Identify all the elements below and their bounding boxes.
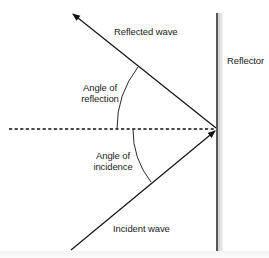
angle-of-reflection-line1: Angle of [80, 82, 120, 93]
angle-of-reflection-label: Angle of reflection [80, 82, 120, 104]
angle-of-incidence-label: Angle of incidence [93, 150, 133, 172]
bottom-edge [0, 251, 269, 258]
angle-of-incidence-line1: Angle of [93, 150, 133, 161]
angle-of-incidence-arc [133, 129, 151, 182]
angle-of-reflection-line2: reflection [80, 93, 120, 104]
reflected-wave-label: Reflected wave [114, 26, 178, 37]
reflector-shadow [218, 13, 223, 251]
angle-of-reflection-arc [117, 67, 138, 129]
incident-wave-label: Incident wave [113, 223, 170, 234]
reflection-diagram [0, 0, 269, 258]
reflector-label: Reflector [227, 55, 264, 66]
angle-of-incidence-line2: incidence [93, 161, 133, 172]
